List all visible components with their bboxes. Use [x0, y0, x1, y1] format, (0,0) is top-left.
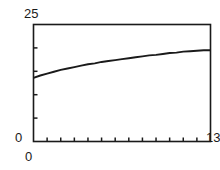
plot-area	[0, 0, 220, 170]
axes-frame	[34, 25, 211, 142]
plot-frame	[34, 25, 211, 142]
chart-figure: ) 25 0 0 13	[0, 0, 220, 170]
data-series-line	[34, 50, 211, 78]
